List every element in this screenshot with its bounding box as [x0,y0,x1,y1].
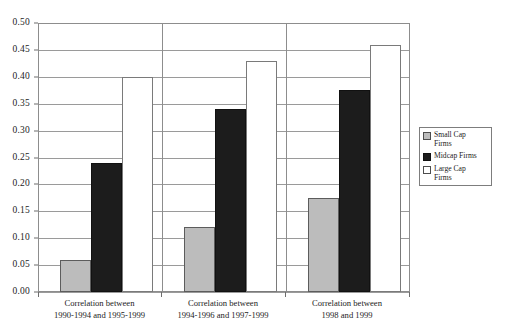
x-label-line: 1998 and 1999 [285,310,409,322]
y-tick-label: 0.20 [13,180,30,190]
x-axis-group-label-1: Correlation between 1990-1994 and 1995-1… [38,298,161,321]
legend-label: Midcap Firms [434,152,477,161]
legend-swatch-small-cap-icon [423,132,431,140]
x-label-line: Correlation between [38,298,161,310]
y-tick-label: 0.35 [13,99,30,109]
x-tick-mark [161,292,162,297]
legend-item-small-cap: Small Cap Firms [423,131,488,148]
bar-small-cap-group3 [308,198,339,292]
y-tick-label: 0.05 [13,260,30,270]
y-tick-label: 0.15 [13,207,30,217]
bar-large-cap-group3 [370,45,401,293]
bar-small-cap-group1 [60,260,91,292]
legend: Small Cap Firms Midcap Firms Large Cap F… [419,127,492,186]
y-tick-label: 0.40 [13,72,30,82]
bar-large-cap-group2 [246,61,277,292]
x-tick-mark [285,292,286,297]
x-axis-group-label-3: Correlation between 1998 and 1999 [285,298,409,321]
gridline [39,292,409,293]
legend-item-midcap: Midcap Firms [423,152,488,161]
x-tick-mark [409,292,410,297]
y-tick-label: 0.50 [13,18,30,28]
x-label-line: 1994-1996 and 1997-1999 [161,310,285,322]
bars-layer [38,23,410,292]
bar-midcap-group1 [91,163,122,292]
bar-chart: 0.50 0.45 0.40 0.35 0.30 0.25 0.20 0.15 … [0,0,507,333]
x-label-line: 1990-1994 and 1995-1999 [38,310,161,322]
y-tick-label: 0.25 [13,153,30,163]
x-label-line: Correlation between [285,298,409,310]
bar-midcap-group3 [339,90,370,292]
x-label-line: Correlation between [161,298,285,310]
legend-item-large-cap: Large Cap Firms [423,165,488,182]
bar-small-cap-group2 [184,227,215,292]
legend-label: Small Cap Firms [434,131,466,148]
bar-midcap-group2 [215,109,246,292]
bar-large-cap-group1 [122,77,153,292]
y-tick-label: 0.10 [13,233,30,243]
legend-swatch-midcap-icon [423,153,431,161]
legend-label: Large Cap Firms [434,165,466,182]
y-tick-label: 0.30 [13,126,30,136]
x-axis-group-label-2: Correlation between 1994-1996 and 1997-1… [161,298,285,321]
y-tick-label: 0.00 [13,287,30,297]
legend-swatch-large-cap-icon [423,166,431,174]
y-tick-label: 0.45 [13,45,30,55]
y-axis: 0.50 0.45 0.40 0.35 0.30 0.25 0.20 0.15 … [0,0,38,333]
x-tick-mark [38,292,39,297]
